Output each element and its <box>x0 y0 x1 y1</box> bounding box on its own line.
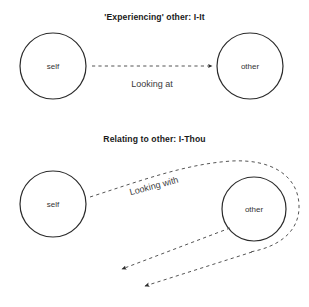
node-label-other-bottom: other <box>245 205 263 214</box>
i-thou-graphics-layer <box>0 0 309 307</box>
node-label-self-bottom: self <box>47 200 59 209</box>
edge-return-lower-path <box>145 252 252 286</box>
edge-return-upper-path <box>122 228 230 269</box>
diagram-root: 'Experiencing' other: I-It self other Lo… <box>0 0 309 307</box>
